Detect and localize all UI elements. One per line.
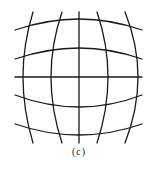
distortion-grid-figure: (c) (0, 0, 152, 176)
figure-caption: (c) (0, 146, 152, 157)
